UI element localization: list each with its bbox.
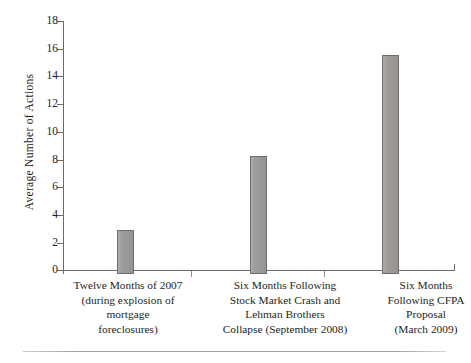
x-tick-0 (191, 271, 192, 277)
y-tick-label: 16 (47, 41, 59, 56)
bar-six-months-after-cfpa (382, 55, 399, 274)
x-label-line: Proposal (366, 307, 471, 322)
page-footer-rule (23, 351, 446, 352)
x-label-line: Six Months (366, 278, 471, 293)
x-axis-end-tick (454, 264, 455, 271)
y-tick-label: 18 (47, 13, 59, 28)
y-tick-label: 6 (52, 179, 58, 194)
y-axis-line (63, 21, 64, 274)
x-label-line: Collapse (September 2008) (206, 322, 364, 337)
y-tick-label: 8 (52, 152, 58, 167)
y-tick-label: 10 (47, 124, 59, 139)
x-label-line: foreclosures) (52, 322, 204, 337)
y-tick-label: 0 (52, 262, 58, 277)
y-tick-label: 12 (47, 96, 59, 111)
plot-area: 18 16 14 12 10 8 6 4 (63, 18, 455, 274)
x-label-line: Six Months Following (206, 278, 364, 293)
y-tick-label: 2 (52, 235, 58, 250)
bar-six-months-after-crash (250, 156, 267, 274)
bar-chart-figure: Average Number of Actions 18 16 14 12 10 (0, 0, 471, 363)
y-tick-label: 14 (47, 68, 59, 83)
x-axis-category-labels: Twelve Months of 2007 (during explosion … (40, 278, 460, 344)
x-tick-1 (324, 271, 325, 277)
x-label-line: (March 2009) (366, 322, 471, 337)
x-label-line: (during explosion of (52, 293, 204, 308)
x-label-six-months-after-crash: Six Months Following Stock Market Crash … (206, 278, 364, 336)
x-label-line: Following CFPA (366, 293, 471, 308)
x-label-twelve-months-2007: Twelve Months of 2007 (during explosion … (52, 278, 204, 336)
bar-twelve-months-2007 (117, 230, 134, 274)
y-tick-label: 4 (52, 207, 58, 222)
x-label-six-months-after-cfpa: Six Months Following CFPA Proposal (Marc… (366, 278, 471, 336)
x-label-line: Twelve Months of 2007 (52, 278, 204, 293)
y-axis-label: Average Number of Actions (23, 32, 35, 252)
x-label-line: mortgage (52, 307, 204, 322)
x-label-line: Lehman Brothers (206, 307, 364, 322)
x-label-line: Stock Market Crash and (206, 293, 364, 308)
